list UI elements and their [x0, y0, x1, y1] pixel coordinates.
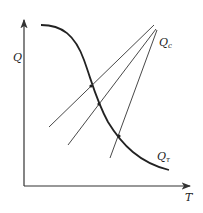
diagram-canvas: Q T Qc Qτ [0, 0, 203, 213]
intersection-point-2 [97, 102, 100, 105]
heat-removal-line-3 [110, 30, 157, 158]
heat-generation-curve [41, 25, 169, 170]
heat-removal-label-sub: c [168, 42, 172, 50]
y-axis-label: Q [13, 51, 22, 64]
intersection-point-1 [89, 84, 92, 87]
heat-removal-label: Qc [159, 36, 172, 50]
heat-generation-label-sub: τ [166, 156, 170, 164]
intersection-point-3 [117, 134, 120, 137]
heat-removal-line-1 [49, 25, 154, 127]
x-axis-label: T [185, 191, 194, 204]
heat-removal-label-main: Q [159, 36, 168, 49]
heat-generation-label-main: Q [157, 150, 166, 163]
heat-generation-label: Qτ [157, 150, 170, 164]
